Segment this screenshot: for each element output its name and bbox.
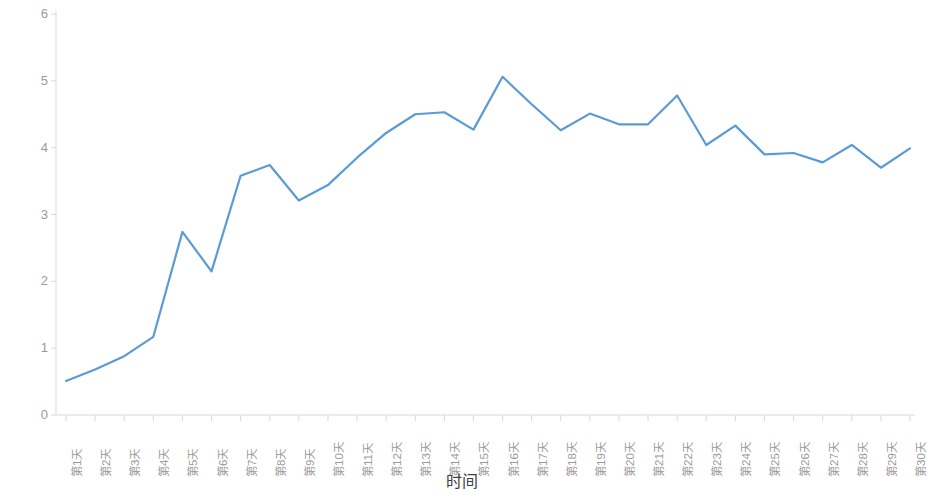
axis-tick-marks: [51, 14, 910, 421]
series-line-conversion-rate: [66, 77, 910, 381]
x-axis-title: 时间: [0, 468, 923, 492]
axis-lines: [56, 11, 915, 415]
